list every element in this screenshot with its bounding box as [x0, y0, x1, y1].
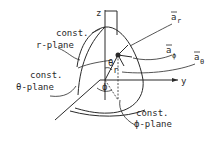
a-phi-label: a — [166, 45, 171, 55]
phi-plane-label-line1: const. — [136, 108, 169, 118]
phi-plane-label-line2: ϕ-plane — [134, 119, 172, 129]
a-theta-label: a — [194, 52, 199, 62]
z-axis-label: z — [96, 8, 101, 18]
a-r-label: a — [171, 12, 176, 22]
theta-plane-label-line2: θ-plane — [16, 82, 54, 92]
y-axis-label: y — [181, 76, 187, 86]
r-plane-label-line1: const. — [56, 28, 89, 38]
r-plane-label-line2: r-plane — [36, 40, 74, 50]
r-label: r — [113, 65, 119, 75]
phi-angle-label: ϕ — [102, 82, 107, 92]
a-phi-subscript: ϕ — [172, 52, 176, 60]
a-theta-subscript: θ — [200, 58, 204, 66]
a-r-subscript: r — [177, 17, 181, 25]
theta-plane-label-line1: const. — [30, 70, 63, 80]
diagram-labels: z y const. r-plane const. θ-plane const.… — [0, 0, 212, 144]
